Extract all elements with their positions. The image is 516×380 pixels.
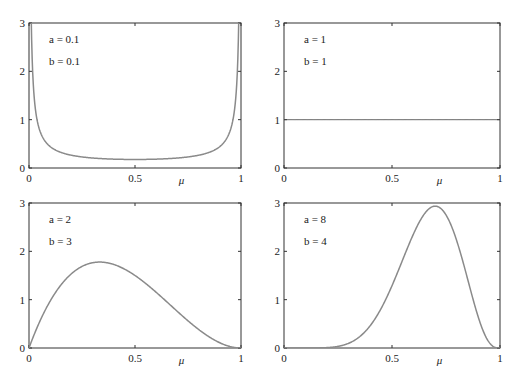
y-tick-label: 1 bbox=[20, 114, 26, 126]
y-tick-label: 0 bbox=[20, 342, 26, 354]
density-curve bbox=[29, 262, 241, 348]
x-tick-label: 0.5 bbox=[385, 172, 399, 184]
plot-panel-3: 00.510123μa = 2b = 3 bbox=[20, 197, 244, 366]
x-tick-label: 1 bbox=[497, 172, 503, 184]
plot-panel-1: 00.510123μa = 0.1b = 0.1 bbox=[20, 13, 244, 186]
y-tick-label: 3 bbox=[275, 17, 281, 29]
x-tick-label: 0 bbox=[281, 172, 287, 184]
x-axis-label: μ bbox=[178, 174, 185, 186]
param-b-label: b = 4 bbox=[304, 235, 327, 247]
param-b-label: b = 0.1 bbox=[49, 55, 80, 67]
param-a-label: a = 0.1 bbox=[49, 33, 79, 45]
plot-panel-2: 00.510123μa = 1b = 1 bbox=[275, 17, 503, 186]
x-axis-label: μ bbox=[178, 354, 185, 366]
x-tick-label: 1 bbox=[238, 352, 244, 364]
y-tick-label: 3 bbox=[275, 197, 281, 209]
y-tick-label: 3 bbox=[20, 197, 26, 209]
x-tick-label: 0.5 bbox=[128, 352, 142, 364]
y-tick-label: 0 bbox=[275, 342, 281, 354]
y-tick-label: 1 bbox=[275, 294, 281, 306]
x-tick-label: 1 bbox=[238, 172, 244, 184]
param-a-label: a = 8 bbox=[304, 213, 327, 225]
y-tick-label: 3 bbox=[20, 17, 26, 29]
y-tick-label: 0 bbox=[275, 162, 281, 174]
y-tick-label: 2 bbox=[275, 245, 281, 257]
y-tick-label: 2 bbox=[20, 65, 26, 77]
y-tick-label: 1 bbox=[20, 294, 26, 306]
x-tick-label: 0 bbox=[26, 352, 32, 364]
param-b-label: b = 1 bbox=[304, 55, 327, 67]
y-tick-label: 1 bbox=[275, 114, 281, 126]
x-tick-label: 1 bbox=[497, 352, 503, 364]
param-b-label: b = 3 bbox=[49, 235, 72, 247]
beta-distribution-grid: 00.510123μa = 0.1b = 0.100.510123μa = 1b… bbox=[0, 0, 516, 380]
x-tick-label: 0.5 bbox=[385, 352, 399, 364]
x-tick-label: 0 bbox=[26, 172, 32, 184]
plot-panel-4: 00.510123μa = 8b = 4 bbox=[275, 197, 503, 366]
x-axis-label: μ bbox=[436, 354, 443, 366]
y-tick-label: 0 bbox=[20, 162, 26, 174]
y-tick-label: 2 bbox=[20, 245, 26, 257]
x-tick-label: 0.5 bbox=[128, 172, 142, 184]
x-axis-label: μ bbox=[436, 174, 443, 186]
y-tick-label: 2 bbox=[275, 65, 281, 77]
x-tick-label: 0 bbox=[281, 352, 287, 364]
density-curve bbox=[284, 206, 500, 348]
param-a-label: a = 1 bbox=[304, 33, 326, 45]
param-a-label: a = 2 bbox=[49, 213, 71, 225]
